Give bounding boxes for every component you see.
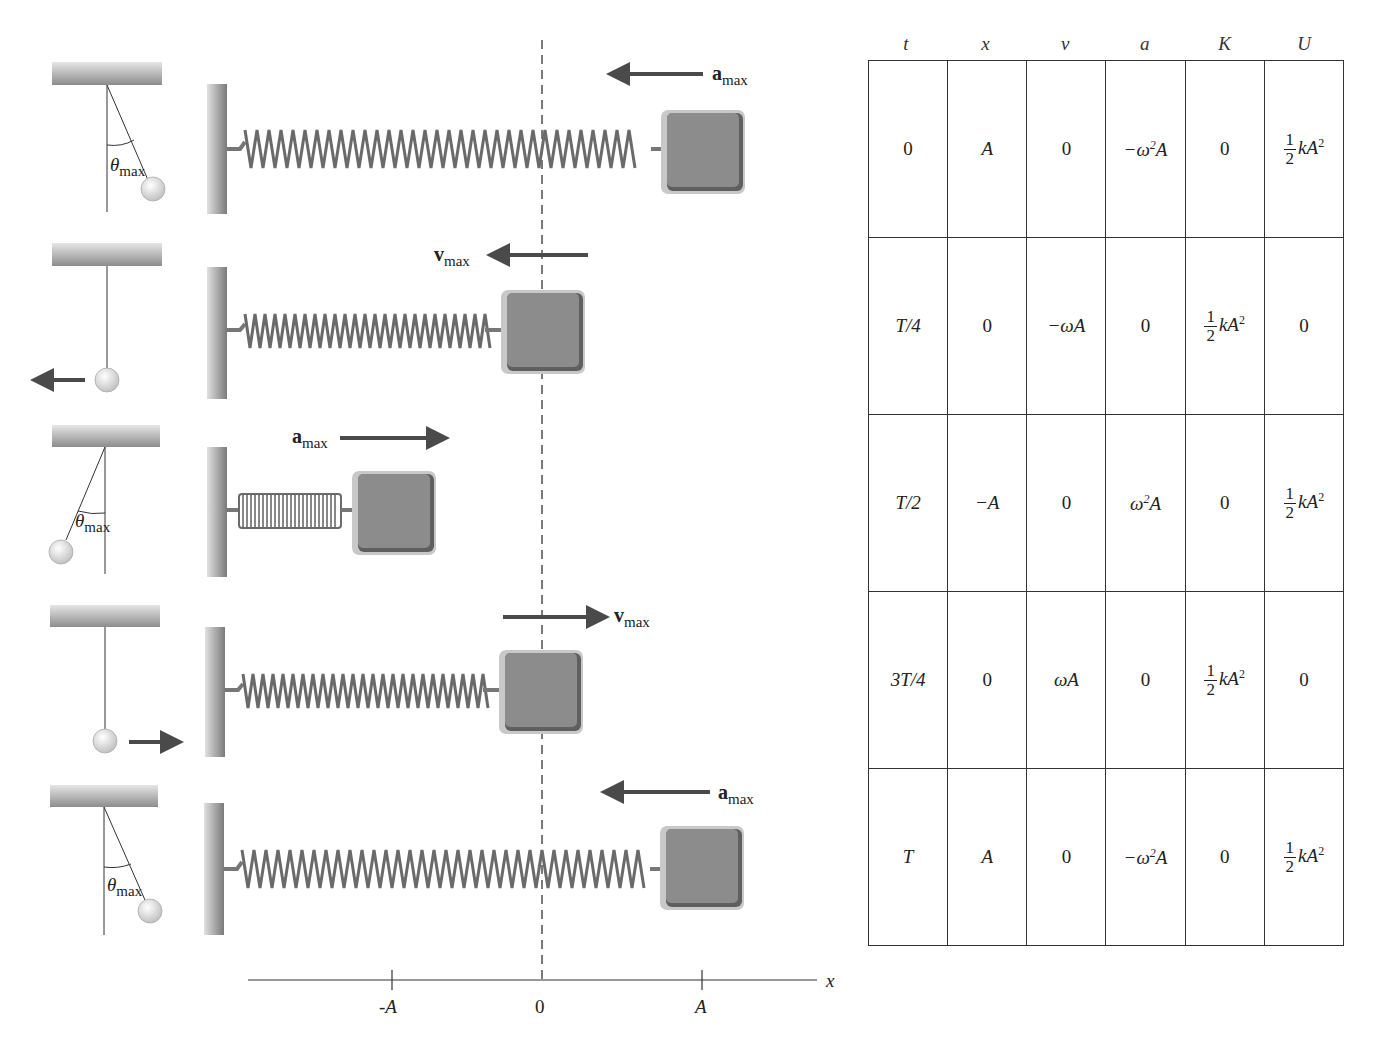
row-4-spring-system — [205, 627, 583, 757]
fraction-one-half: 12 — [1204, 662, 1217, 699]
row-3-pendulum — [49, 425, 160, 574]
header-a: a — [1105, 28, 1185, 60]
fraction-one-half: 12 — [1284, 485, 1297, 522]
cell-a: −ω2A — [1106, 769, 1185, 946]
a-max-label-row-5: amax — [718, 781, 754, 808]
header-x: x — [946, 28, 1026, 60]
cell-x: A — [948, 769, 1027, 946]
cell-v: −ωA — [1027, 238, 1106, 415]
tick-label-zero: 0 — [535, 996, 545, 1018]
table-row: TA0−ω2A012kA2 — [869, 769, 1344, 946]
cell-a: 0 — [1106, 592, 1185, 769]
cell-v: 0 — [1027, 61, 1106, 238]
cell-a: 0 — [1106, 238, 1185, 415]
values-grid: 0A0−ω2A012kA2T/40−ωA012kA20T/2−A0ω2A012k… — [868, 60, 1344, 946]
shm-diagram: θmax amax vmax θmax amax vmax θmax amax … — [0, 0, 860, 1040]
table-row: 3T/40ωA012kA20 — [869, 592, 1344, 769]
cell-v: ωA — [1027, 592, 1106, 769]
table-header: t x v a K U — [866, 28, 1344, 60]
row-2-spring-system — [207, 267, 585, 399]
fraction-one-half: 12 — [1284, 839, 1297, 876]
cell-t: 0 — [869, 61, 948, 238]
header-v: v — [1025, 28, 1105, 60]
table-row: T/2−A0ω2A012kA2 — [869, 415, 1344, 592]
cell-t: T/4 — [869, 238, 948, 415]
cell-a: ω2A — [1106, 415, 1185, 592]
x-axis-label: x — [826, 970, 834, 992]
cell-x: 0 — [948, 592, 1027, 769]
header-t: t — [866, 28, 946, 60]
cell-u: 12kA2 — [1264, 769, 1343, 946]
cell-a: −ω2A — [1106, 61, 1185, 238]
row-3-spring-system — [207, 447, 436, 577]
theta-max-label-row-3: θmax — [75, 510, 110, 536]
cell-k: 0 — [1185, 61, 1264, 238]
header-u: U — [1264, 28, 1344, 60]
tick-label-a: A — [695, 996, 707, 1018]
row-1-pendulum — [52, 62, 165, 212]
theta-max-label-row-1: θmax — [110, 154, 145, 180]
table-row: 0A0−ω2A012kA2 — [869, 61, 1344, 238]
fraction-one-half: 12 — [1204, 308, 1217, 345]
cell-t: 3T/4 — [869, 592, 948, 769]
cell-u: 12kA2 — [1264, 61, 1343, 238]
cell-u: 0 — [1264, 592, 1343, 769]
cell-k: 0 — [1185, 769, 1264, 946]
cell-x: A — [948, 61, 1027, 238]
cell-v: 0 — [1027, 415, 1106, 592]
a-max-label-row-3: amax — [292, 425, 328, 452]
theta-max-label-row-5: θmax — [107, 874, 142, 900]
a-max-label-row-1: amax — [712, 62, 748, 89]
cell-x: −A — [948, 415, 1027, 592]
header-k: K — [1185, 28, 1265, 60]
cell-x: 0 — [948, 238, 1027, 415]
table-row: T/40−ωA012kA20 — [869, 238, 1344, 415]
shm-values-table: t x v a K U 0A0−ω2A012kA2T/40−ωA012kA20T… — [866, 28, 1344, 946]
fraction-one-half: 12 — [1284, 131, 1297, 168]
row-5-pendulum — [50, 785, 162, 935]
cell-v: 0 — [1027, 769, 1106, 946]
tick-label-neg-a: -A — [379, 996, 397, 1018]
v-max-label-row-2: vmax — [434, 243, 470, 270]
row-5-spring-system — [204, 803, 744, 935]
x-axis — [248, 970, 817, 990]
cell-t: T/2 — [869, 415, 948, 592]
cell-t: T — [869, 769, 948, 946]
cell-u: 12kA2 — [1264, 415, 1343, 592]
cell-k: 0 — [1185, 415, 1264, 592]
row-2-pendulum — [42, 243, 162, 392]
cell-k: 12kA2 — [1185, 238, 1264, 415]
v-max-label-row-4: vmax — [614, 604, 650, 631]
cell-u: 0 — [1264, 238, 1343, 415]
cell-k: 12kA2 — [1185, 592, 1264, 769]
row-1-spring-system — [207, 84, 745, 214]
row-4-pendulum — [50, 605, 172, 753]
